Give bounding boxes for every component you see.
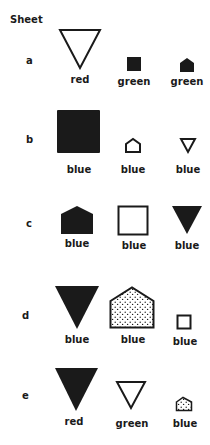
caption-e-3: blue — [160, 418, 210, 429]
caption-a-1: red — [55, 74, 105, 85]
dotted-pentagon-icon — [109, 286, 155, 329]
outline-triangle-icon — [115, 380, 147, 410]
caption-d-2: blue — [108, 334, 158, 345]
solid-square-icon — [56, 109, 101, 154]
caption-c-3: blue — [162, 240, 210, 251]
row-label-c: c — [26, 218, 32, 229]
caption-e-1: red — [49, 416, 99, 427]
caption-b-1: blue — [54, 164, 104, 175]
solid-pentagon-icon — [179, 57, 195, 73]
solid-pentagon-icon — [60, 205, 94, 235]
caption-b-3: blue — [163, 164, 210, 175]
sheet-title: Sheet — [10, 14, 43, 25]
row-label-e: e — [22, 390, 29, 401]
caption-e-2: green — [107, 418, 157, 429]
outline-square-icon — [176, 314, 192, 330]
solid-triangle-icon — [54, 367, 99, 412]
solid-square-icon — [126, 56, 142, 72]
caption-d-3: blue — [160, 336, 210, 347]
caption-a-2: green — [109, 76, 159, 87]
outline-triangle-icon — [58, 28, 102, 70]
outline-triangle-icon — [179, 137, 197, 155]
outline-square-icon — [117, 205, 149, 236]
caption-a-3: green — [162, 76, 210, 87]
solid-triangle-icon — [54, 285, 100, 330]
solid-triangle-icon — [171, 205, 203, 235]
caption-c-2: blue — [109, 240, 159, 251]
caption-d-1: blue — [52, 334, 102, 345]
caption-b-2: blue — [108, 164, 158, 175]
row-label-d: d — [22, 310, 29, 321]
row-label-a: a — [26, 55, 33, 66]
row-label-b: b — [26, 134, 33, 145]
dotted-pentagon-icon — [175, 396, 193, 412]
caption-c-1: blue — [52, 238, 102, 249]
outline-pentagon-icon — [124, 137, 142, 154]
